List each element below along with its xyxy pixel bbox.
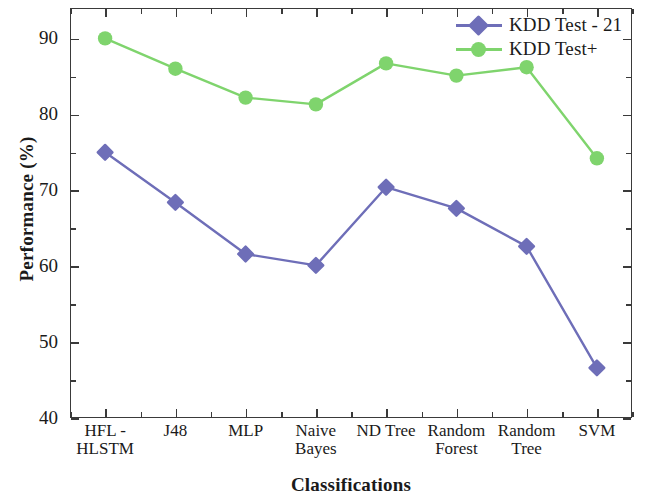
y-tick-minor [626, 228, 631, 230]
x-tick-minor [422, 9, 424, 14]
y-tick-major [71, 342, 79, 344]
legend-label: KDD Test+ [503, 38, 598, 60]
y-tick-minor [71, 304, 76, 306]
x-tick-minor [141, 9, 143, 14]
y-tick-major [623, 418, 631, 420]
legend-circle-icon [471, 42, 486, 57]
x-tick-minor [351, 412, 353, 417]
y-tick-label: 40 [12, 407, 58, 429]
x-tick-minor [281, 9, 283, 14]
legend-entry[interactable]: KDD Test+ [455, 37, 629, 61]
performance-line-chart: Performance (%) Classifications 40506070… [0, 0, 645, 503]
y-tick-label: 50 [12, 331, 58, 353]
x-tick-label: SVM [549, 422, 645, 440]
x-tick-major [527, 409, 529, 417]
y-tick-major [71, 115, 79, 117]
x-tick-major [105, 409, 107, 417]
legend-swatch [455, 14, 503, 36]
legend-swatch [455, 38, 503, 60]
x-tick-major [597, 409, 599, 417]
y-tick-minor [626, 153, 631, 155]
plot-area [70, 8, 632, 418]
x-tick-minor [70, 9, 72, 14]
y-tick-major [623, 115, 631, 117]
x-tick-minor [281, 412, 283, 417]
y-tick-label: 80 [12, 103, 58, 125]
chart-legend: KDD Test - 21KDD Test+ [455, 12, 629, 63]
x-tick-minor [141, 412, 143, 417]
x-tick-minor [211, 9, 213, 14]
x-tick-minor [492, 412, 494, 417]
x-tick-major [176, 9, 178, 17]
y-tick-minor [71, 77, 76, 79]
x-tick-minor [632, 412, 634, 417]
y-tick-label: 60 [12, 255, 58, 277]
x-tick-minor [632, 9, 634, 14]
y-tick-major [71, 190, 79, 192]
y-tick-label: 90 [12, 27, 58, 49]
y-tick-major [71, 266, 79, 268]
x-tick-major [246, 409, 248, 417]
x-axis-title: Classifications [70, 474, 632, 496]
x-tick-major [176, 409, 178, 417]
y-tick-label: 70 [12, 179, 58, 201]
y-tick-minor [626, 380, 631, 382]
x-tick-minor [422, 412, 424, 417]
y-tick-major [623, 342, 631, 344]
y-tick-minor [626, 304, 631, 306]
x-tick-minor [211, 412, 213, 417]
x-tick-major [457, 409, 459, 417]
x-tick-major [316, 409, 318, 417]
legend-label: KDD Test - 21 [503, 14, 622, 36]
x-tick-major [386, 9, 388, 17]
x-tick-major [316, 9, 318, 17]
x-tick-minor [70, 412, 72, 417]
x-tick-major [386, 409, 388, 417]
y-tick-major [623, 190, 631, 192]
y-tick-major [71, 418, 79, 420]
y-tick-minor [626, 77, 631, 79]
x-tick-minor [562, 412, 564, 417]
x-tick-minor [351, 9, 353, 14]
legend-diamond-icon [468, 15, 489, 36]
y-tick-minor [71, 380, 76, 382]
y-tick-minor [71, 153, 76, 155]
x-tick-major [105, 9, 107, 17]
legend-entry[interactable]: KDD Test - 21 [455, 13, 629, 37]
x-tick-major [246, 9, 248, 17]
y-tick-major [623, 266, 631, 268]
y-tick-major [71, 39, 79, 41]
y-tick-minor [71, 228, 76, 230]
